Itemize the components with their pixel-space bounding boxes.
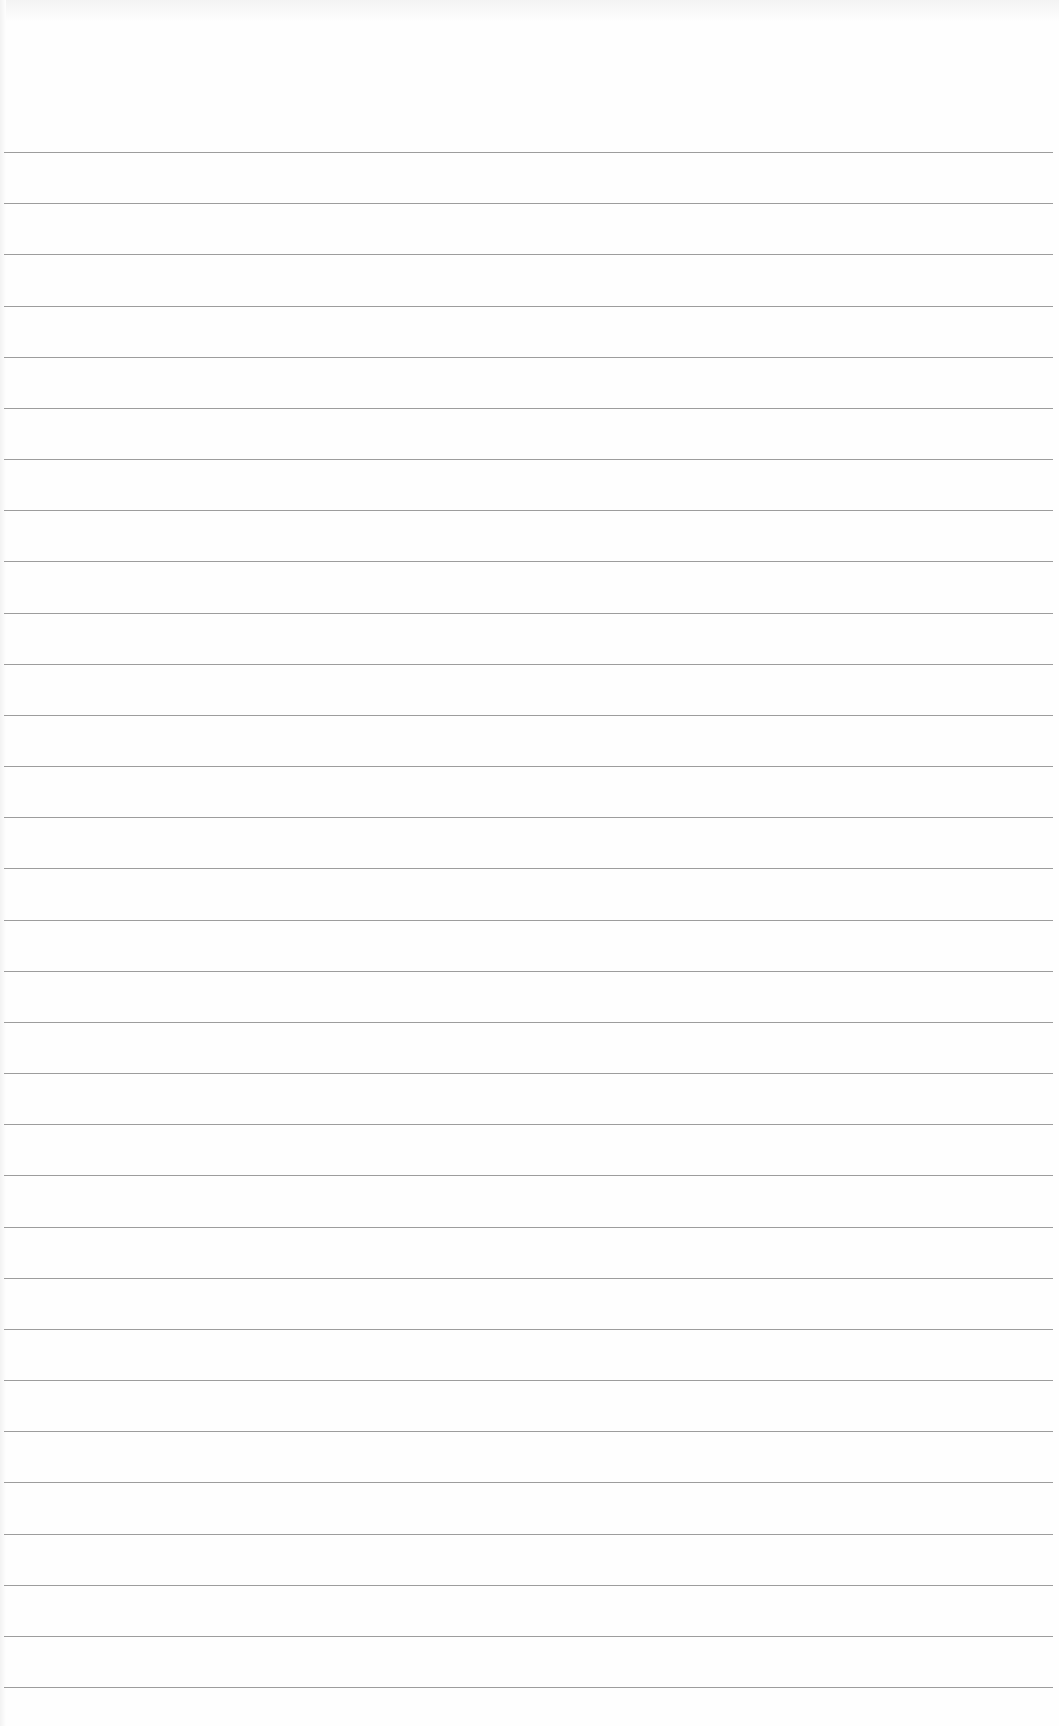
ruled-line	[4, 1431, 1053, 1432]
ruled-line	[4, 715, 1053, 716]
ruled-line	[4, 408, 1053, 409]
ruled-line	[4, 152, 1053, 153]
ruled-line	[4, 1380, 1053, 1381]
ruled-line	[4, 920, 1053, 921]
ruled-line	[4, 510, 1053, 511]
ruled-line	[4, 766, 1053, 767]
ruled-line	[4, 1329, 1053, 1330]
lined-paper-sheet	[0, 0, 1059, 1726]
ruled-line	[4, 459, 1053, 460]
ruled-line	[4, 306, 1053, 307]
perforated-top-edge	[0, 0, 1059, 22]
ruled-line	[4, 1482, 1053, 1483]
ruled-line	[4, 254, 1053, 255]
ruled-line	[4, 868, 1053, 869]
paper-left-edge	[0, 0, 6, 1726]
ruled-line	[4, 357, 1053, 358]
ruled-line	[4, 1227, 1053, 1228]
ruled-line	[4, 1073, 1053, 1074]
ruled-line	[4, 203, 1053, 204]
ruled-line	[4, 1534, 1053, 1535]
ruled-line	[4, 817, 1053, 818]
ruled-line	[4, 1022, 1053, 1023]
ruled-line	[4, 1636, 1053, 1637]
ruled-line	[4, 971, 1053, 972]
ruled-line	[4, 561, 1053, 562]
ruled-line	[4, 664, 1053, 665]
ruled-line	[4, 1175, 1053, 1176]
ruled-line	[4, 613, 1053, 614]
ruled-line	[4, 1278, 1053, 1279]
ruled-line	[4, 1585, 1053, 1586]
ruled-line	[4, 1687, 1053, 1688]
ruled-line	[4, 1124, 1053, 1125]
